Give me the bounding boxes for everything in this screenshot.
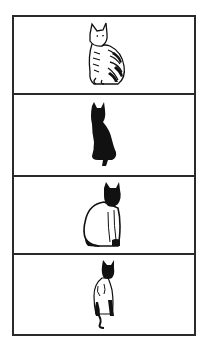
panel-siamese-sitting [14, 177, 194, 255]
tabby-cat-icon [74, 22, 134, 88]
panel-tabby-cat [14, 17, 194, 95]
figure-frame [12, 15, 196, 336]
slim-siamese-cat-icon [84, 260, 124, 330]
siamese-cat-icon [78, 182, 130, 248]
black-cat-silhouette-icon [84, 102, 124, 168]
panel-black-cat [14, 95, 194, 177]
panel-siamese-slim [14, 255, 194, 334]
